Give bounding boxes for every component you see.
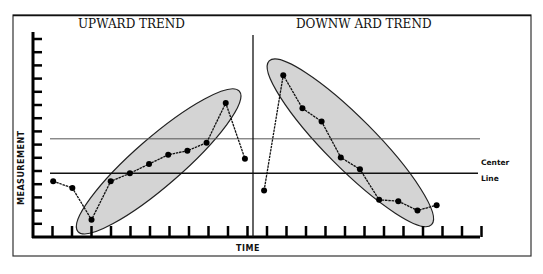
- data-point: [299, 105, 305, 111]
- data-point: [376, 197, 382, 203]
- data-point: [204, 140, 210, 146]
- data-point: [395, 198, 401, 204]
- data-point: [69, 185, 75, 191]
- data-point: [242, 156, 248, 162]
- y-axis-label: MEASUREMENT: [17, 130, 26, 205]
- panel-title-downward: DOWNW ARD TREND: [296, 17, 432, 31]
- center-line-label-2: Line: [481, 174, 499, 183]
- x-axis-label: TIME: [236, 244, 260, 253]
- data-point: [261, 188, 267, 194]
- data-point: [146, 161, 152, 167]
- data-point: [89, 217, 95, 223]
- control-chart: UPWARD TREND DOWNW ARD TREND TIME MEASUR…: [0, 0, 543, 274]
- data-point: [165, 152, 171, 158]
- data-point: [357, 166, 363, 172]
- data-point: [280, 72, 286, 78]
- data-point: [434, 202, 440, 208]
- data-point: [184, 148, 190, 154]
- data-point: [319, 119, 325, 125]
- data-point: [338, 154, 344, 160]
- data-point: [108, 178, 114, 184]
- data-point: [223, 100, 229, 106]
- center-line-label-1: Center: [481, 158, 510, 167]
- data-point: [50, 178, 56, 184]
- data-point: [414, 207, 420, 213]
- panel-title-upward: UPWARD TREND: [78, 17, 185, 31]
- data-point: [127, 170, 133, 176]
